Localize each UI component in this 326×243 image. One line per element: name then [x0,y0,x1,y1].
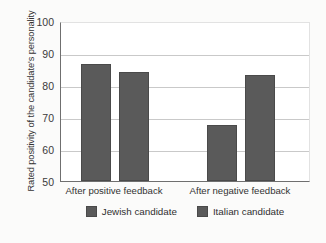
y-tick-90: 90 [28,48,54,60]
bar-chart-figure: Rated positivity of the candidate's pers… [0,0,326,243]
y-tick-50: 50 [28,176,54,188]
bar-italian-negative [245,75,275,181]
plot-area [60,22,310,182]
x-tick-after-negative-feedback: After negative feedback [180,185,300,196]
chart-legend: Jewish candidate Italian candidate [60,203,310,219]
y-axis-tick-labels: 100 90 80 70 60 50 [28,22,56,182]
legend-label: Jewish candidate [102,206,177,217]
bar-jewish-negative [207,125,237,181]
x-tick-after-positive-feedback: After positive feedback [54,185,174,196]
y-tick-100: 100 [28,16,54,28]
legend-swatch-icon [86,206,97,217]
legend-item-jewish-candidate: Jewish candidate [86,206,177,217]
y-tick-70: 70 [28,112,54,124]
bar-jewish-positive [81,64,111,181]
gridline-90 [61,55,309,56]
legend-item-italian-candidate: Italian candidate [197,206,284,217]
y-tick-80: 80 [28,80,54,92]
y-tick-60: 60 [28,144,54,156]
legend-label: Italian candidate [213,206,284,217]
legend-swatch-icon [197,206,208,217]
bar-italian-positive [119,72,149,181]
x-axis-tick-labels: After positive feedback After negative f… [60,185,310,201]
